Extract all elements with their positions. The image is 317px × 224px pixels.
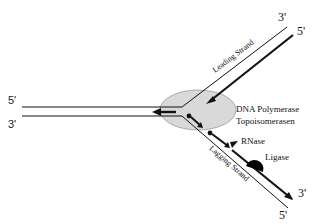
diagram-svg: 5' 3' 3' 5' 3' 5' Leading Strand Lagging… xyxy=(0,0,317,224)
polymerase-label: DNA Polymerase xyxy=(236,104,299,114)
left-bottom-3prime: 3' xyxy=(8,118,16,130)
topoisomerase-label: Topoisomerasen xyxy=(236,116,295,126)
ligase-icon xyxy=(246,160,264,172)
leading-3prime: 3' xyxy=(278,10,286,24)
left-arrowhead xyxy=(152,108,161,116)
rnase-icon xyxy=(230,141,238,148)
leading-5prime: 5' xyxy=(297,24,305,38)
ligase-label: Ligase xyxy=(265,152,289,162)
leading-template-strand xyxy=(182,27,287,107)
replication-fork-diagram: 5' 3' 3' 5' 3' 5' Leading Strand Lagging… xyxy=(0,0,317,224)
rnase-label: RNase xyxy=(241,136,265,146)
lagging-strand-label: Lagging Strand xyxy=(208,144,251,183)
primer-2 xyxy=(208,131,213,136)
lagging-3prime: 3' xyxy=(298,186,306,200)
lagging-5prime: 5' xyxy=(279,208,287,222)
left-top-5prime: 5' xyxy=(8,94,16,106)
primer-1 xyxy=(187,114,192,119)
